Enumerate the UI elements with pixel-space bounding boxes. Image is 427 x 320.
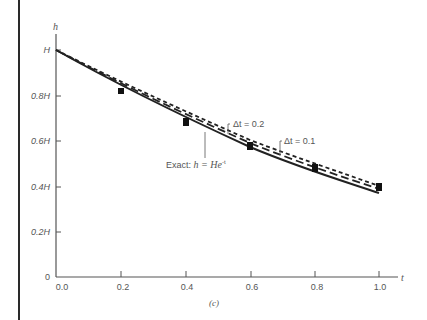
x-tick-label: 1.0	[374, 282, 387, 292]
x-axis-label: t	[401, 272, 404, 283]
y-ticks	[56, 50, 61, 232]
exact-curve	[56, 50, 379, 193]
figure-caption: (c)	[209, 298, 219, 308]
y-tick-label: H	[44, 45, 51, 55]
x-tick-label: 0.2	[117, 282, 130, 292]
exact-label: Exact: h = He-t	[166, 159, 226, 170]
y-axis-label: h	[53, 21, 58, 32]
x-ticks	[121, 271, 379, 277]
x-tick-label: 0.0	[56, 282, 69, 292]
y-tick-label: 0.2H	[31, 227, 51, 237]
dt01-label: Δt = 0.1	[284, 136, 315, 146]
y-tick-label: 0.8H	[31, 91, 51, 101]
chart: h t 0 0.2H 0.4H 0.6H 0.8H H 0.0 0.2 0.4 …	[0, 0, 427, 320]
x-tick-label: 0.6	[246, 282, 259, 292]
x-tick-label: 0.4	[181, 282, 194, 292]
y-tick-label: 0	[45, 272, 50, 282]
y-tick-label: 0.6H	[31, 136, 51, 146]
y-tick-label: 0.4H	[31, 182, 51, 192]
dt02-label: Δt = 0.2	[233, 119, 264, 129]
x-tick-label: 0.8	[311, 282, 324, 292]
